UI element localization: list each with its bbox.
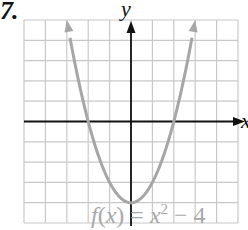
problem-number: 7. — [0, 0, 18, 26]
graph-figure: 7. y x f(x) = x2 − 4 — [0, 0, 248, 230]
curve-right-arrow-icon — [189, 20, 198, 33]
term-exponent: 2 — [161, 201, 169, 217]
equals-sign: = — [124, 202, 150, 228]
term-base: x — [150, 202, 161, 228]
function-name: f — [91, 202, 98, 228]
function-label: f(x) = x2 − 4 — [91, 201, 206, 229]
paren-open: ( — [98, 202, 106, 228]
function-variable: x — [106, 202, 117, 228]
axes — [24, 21, 245, 226]
y-axis-arrow-icon — [127, 21, 136, 33]
x-axis-label: x — [241, 108, 248, 134]
y-axis-label: y — [121, 0, 131, 22]
term-constant: − 4 — [168, 202, 206, 228]
plot-area — [0, 0, 248, 230]
curve-left-arrow-icon — [64, 20, 73, 33]
